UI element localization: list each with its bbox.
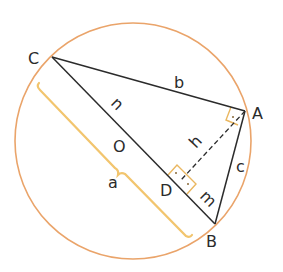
- right-angle-dot-d1: [175, 172, 177, 174]
- label-diameter-a: a: [108, 173, 118, 192]
- label-b: B: [206, 232, 217, 251]
- right-angle-dot-a: [232, 116, 234, 118]
- side-b: [52, 57, 245, 111]
- label-segment-n: n: [107, 93, 128, 114]
- label-o: O: [113, 137, 126, 156]
- label-d: D: [160, 181, 172, 200]
- label-altitude-h: h: [185, 131, 206, 151]
- right-angle-marker-a: [226, 107, 238, 125]
- label-a: A: [252, 104, 263, 123]
- right-angle-marker-d-left: [168, 165, 186, 175]
- label-side-b: b: [174, 73, 184, 92]
- label-side-c: c: [236, 157, 245, 176]
- geometry-diagram: C A B O D b c h n m a: [0, 0, 283, 272]
- label-segment-m: m: [196, 186, 220, 210]
- right-angle-dot-d2: [187, 183, 189, 185]
- label-c: C: [28, 49, 39, 68]
